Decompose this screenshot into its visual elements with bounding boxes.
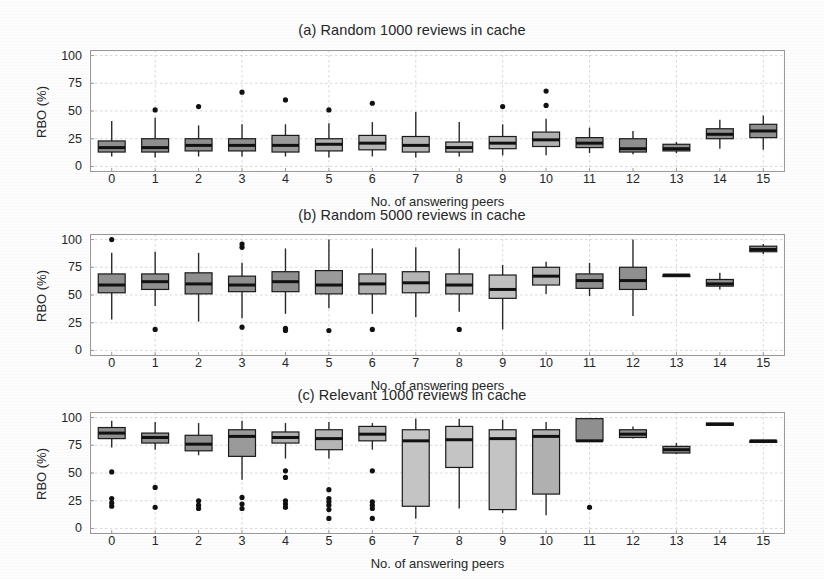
y-tick-label: 100 — [44, 49, 82, 63]
x-tick-label: 2 — [195, 356, 202, 370]
y-tick-label: 0 — [44, 343, 82, 357]
x-tick-label: 1 — [152, 534, 159, 548]
x-tick-label: 9 — [499, 356, 506, 370]
x-tick-label: 14 — [713, 172, 727, 186]
boxplot-panel-c-x15 — [750, 441, 777, 443]
x-tick-label: 11 — [583, 534, 596, 548]
y-tick-label: 75 — [44, 260, 82, 274]
x-tick-label: 1 — [152, 356, 159, 370]
x-tick-label: 14 — [713, 534, 727, 548]
y-tick-label: 0 — [44, 521, 82, 535]
x-tick-label: 3 — [239, 172, 246, 186]
y-tick-label: 50 — [44, 104, 82, 118]
plot-area-panel-c — [90, 412, 785, 534]
y-tick-label: 50 — [44, 466, 82, 480]
y-tick-label: 75 — [44, 76, 82, 90]
figure-container: (a) Random 1000 reviews in cacheRBO (%)0… — [0, 0, 824, 579]
x-tick-label: 2 — [195, 534, 202, 548]
x-tick-label: 1 — [152, 172, 159, 186]
x-tick-label: 10 — [539, 172, 553, 186]
panel-title-panel-c: (c) Relevant 1000 reviews in cache — [0, 387, 824, 403]
y-tick-label: 100 — [44, 233, 82, 247]
x-tick-label: 3 — [239, 534, 246, 548]
x-tick-label: 8 — [456, 356, 463, 370]
x-tick-label: 12 — [626, 172, 640, 186]
x-tick-label: 10 — [539, 356, 553, 370]
x-tick-label: 4 — [282, 172, 289, 186]
x-tick-label: 6 — [369, 356, 376, 370]
x-tick-label: 7 — [412, 356, 419, 370]
x-tick-label: 4 — [282, 534, 289, 548]
x-tick-label: 0 — [108, 172, 115, 186]
boxplot-panel-a-x13 — [663, 142, 690, 153]
y-tick-label: 25 — [44, 316, 82, 330]
x-tick-label: 13 — [669, 534, 683, 548]
x-tick-label: 12 — [626, 534, 640, 548]
x-tick-label: 13 — [669, 172, 683, 186]
x-tick-label: 7 — [412, 534, 419, 548]
x-tick-label: 6 — [369, 172, 376, 186]
x-tick-label: 9 — [499, 534, 506, 548]
x-tick-label: 9 — [499, 172, 506, 186]
panel-title-panel-b: (b) Random 5000 reviews in cache — [0, 207, 824, 223]
y-tick-label: 25 — [44, 494, 82, 508]
x-tick-label: 15 — [756, 356, 770, 370]
x-tick-label: 8 — [456, 172, 463, 186]
x-tick-label: 5 — [325, 172, 332, 186]
x-tick-label: 10 — [539, 534, 553, 548]
x-tick-label: 0 — [108, 534, 115, 548]
x-tick-label: 11 — [583, 172, 596, 186]
x-tick-label: 2 — [195, 172, 202, 186]
y-tick-label: 0 — [44, 159, 82, 173]
x-tick-label: 14 — [713, 356, 727, 370]
x-tick-label: 7 — [412, 172, 419, 186]
x-tick-label: 0 — [108, 356, 115, 370]
x-tick-label: 6 — [369, 534, 376, 548]
x-tick-label: 15 — [756, 534, 770, 548]
boxplot-panel-b-x13 — [663, 275, 690, 277]
y-tick-label: 50 — [44, 288, 82, 302]
x-tick-label: 5 — [325, 356, 332, 370]
boxplot-panel-c-x14 — [706, 423, 733, 425]
x-tick-label: 8 — [456, 534, 463, 548]
y-tick-label: 75 — [44, 438, 82, 452]
x-tick-label: 5 — [325, 534, 332, 548]
y-tick-label: 100 — [44, 411, 82, 425]
x-tick-label: 4 — [282, 356, 289, 370]
x-tick-label: 15 — [756, 172, 770, 186]
boxplot-panel-c-x7 — [402, 419, 429, 519]
plot-area-panel-b — [90, 234, 785, 356]
x-tick-label: 11 — [583, 356, 596, 370]
panel-title-panel-a: (a) Random 1000 reviews in cache — [0, 22, 824, 38]
x-tick-label: 3 — [239, 356, 246, 370]
x-tick-label: 13 — [669, 356, 683, 370]
x-axis-label-panel-c: No. of answering peers — [90, 556, 785, 571]
plot-area-panel-a — [90, 50, 785, 172]
x-tick-label: 12 — [626, 356, 640, 370]
y-tick-label: 25 — [44, 132, 82, 146]
boxplot-panel-c-x9 — [489, 420, 516, 513]
